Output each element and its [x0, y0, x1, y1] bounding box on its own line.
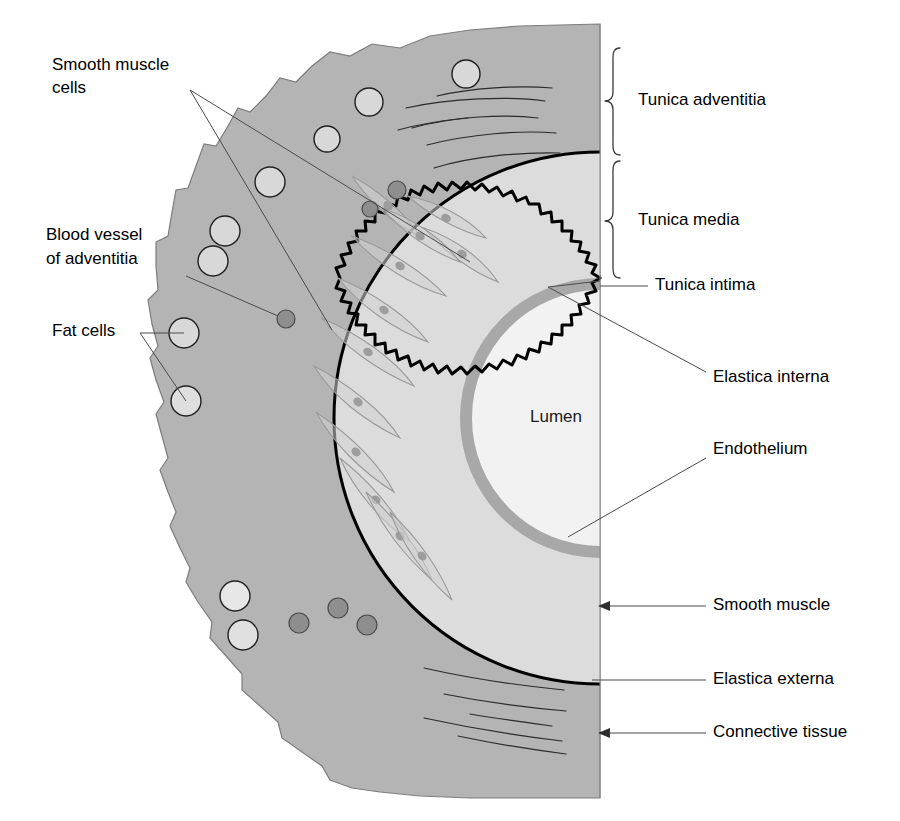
connector-connective-tissue: [598, 728, 706, 738]
artery-cross-section-figure: Smooth muscle cells Blood vessel of adve…: [0, 0, 900, 821]
fat-cell: [198, 246, 228, 276]
label-elastica-externa: Elastica externa: [713, 669, 834, 688]
label-endothelium: Endothelium: [713, 439, 808, 458]
fat-cell: [210, 216, 240, 246]
label-smooth-muscle-cells-line2: cells: [52, 78, 86, 97]
label-lumen: Lumen: [530, 407, 582, 426]
label-connective-tissue: Connective tissue: [713, 722, 847, 741]
label-smooth-muscle: Smooth muscle: [713, 595, 830, 614]
brace-tunica-adventitia: [605, 48, 620, 155]
label-elastica-interna: Elastica interna: [713, 367, 830, 386]
fat-cell: [220, 581, 250, 611]
label-tunica-media: Tunica media: [638, 210, 740, 229]
label-blood-vessel-of-adventitia-line1: Blood vessel: [46, 225, 142, 244]
fat-cell: [255, 167, 285, 197]
blood-vessel-of-adventitia: [328, 598, 348, 618]
label-fat-cells: Fat cells: [52, 321, 115, 340]
artery-diagram-root: Smooth muscle cells Blood vessel of adve…: [0, 0, 900, 821]
label-tunica-intima: Tunica intima: [655, 275, 756, 294]
fat-cell: [355, 88, 383, 116]
blood-vessel-of-adventitia: [388, 181, 406, 199]
label-blood-vessel-of-adventitia-line2: of adventitia: [46, 249, 138, 268]
blood-vessel-of-adventitia: [289, 613, 309, 633]
connector-smooth-muscle: [598, 601, 706, 611]
brace-tunica-media: [605, 161, 620, 278]
blood-vessel-of-adventitia: [357, 615, 377, 635]
label-tunica-adventitia: Tunica adventitia: [638, 90, 766, 109]
blood-vessel-of-adventitia: [362, 201, 378, 217]
label-smooth-muscle-cells-line1: Smooth muscle: [52, 55, 169, 74]
fat-cell: [314, 126, 340, 152]
fat-cell: [452, 60, 480, 88]
fat-cell: [228, 620, 258, 650]
blood-vessel-of-adventitia: [277, 310, 295, 328]
